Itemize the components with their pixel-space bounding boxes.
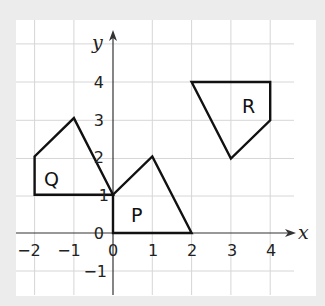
x-tick-2: 2 <box>187 241 197 260</box>
x-tick-4: 4 <box>266 241 276 260</box>
x-axis-label: x <box>298 221 309 243</box>
x-tick-0: 0 <box>108 241 118 260</box>
y-axis-label: y <box>91 31 103 53</box>
shape-r-label: R <box>242 95 255 117</box>
y-tick-2: 2 <box>94 148 104 167</box>
shape-q-label: Q <box>44 168 59 190</box>
y-tick-3: 3 <box>94 111 104 130</box>
x-tick-3: 3 <box>227 241 237 260</box>
x-tick-neg1: −1 <box>57 241 81 260</box>
shape-p-label: P <box>131 204 142 226</box>
axis-labels: x y <box>91 31 309 243</box>
coordinate-grid: −2 −1 0 1 2 3 4 −1 0 1 2 3 4 x y P Q R <box>0 0 325 306</box>
y-tick-0: 0 <box>94 224 104 243</box>
x-tick-neg2: −2 <box>17 241 41 260</box>
x-tick-1: 1 <box>148 241 158 260</box>
y-tick-1: 1 <box>99 186 109 205</box>
y-tick-4: 4 <box>94 73 104 92</box>
y-tick-neg1: −1 <box>83 262 107 281</box>
